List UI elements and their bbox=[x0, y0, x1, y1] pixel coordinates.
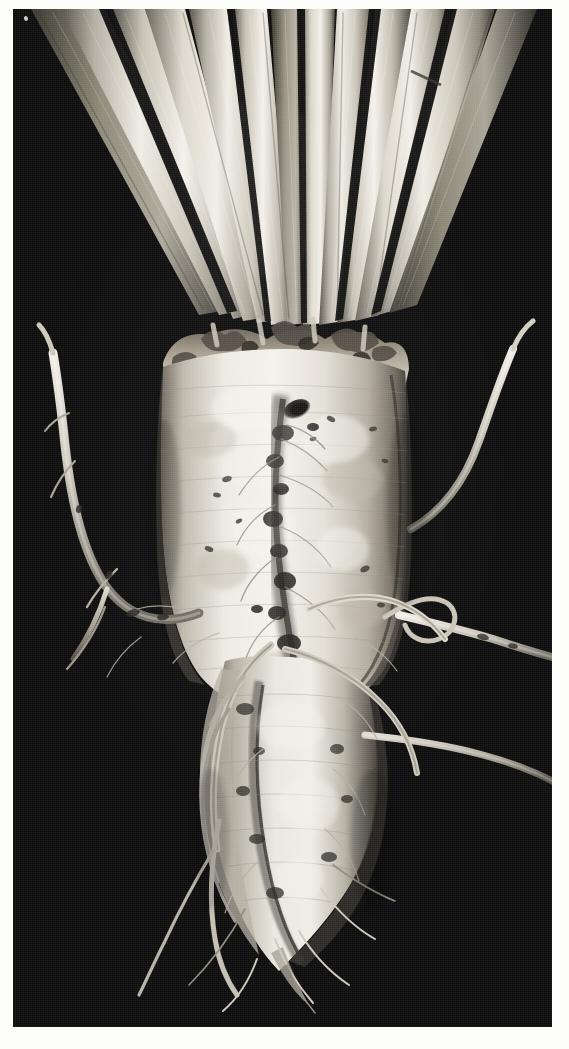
page-margin-left bbox=[0, 0, 13, 1049]
page-margin-bottom bbox=[0, 1027, 569, 1049]
root-photograph bbox=[13, 9, 552, 1027]
page-margin-right bbox=[552, 0, 569, 1049]
page-margin-top bbox=[0, 0, 569, 9]
root-vegetable-illustration bbox=[13, 9, 552, 1027]
figure-plate bbox=[0, 0, 569, 1049]
